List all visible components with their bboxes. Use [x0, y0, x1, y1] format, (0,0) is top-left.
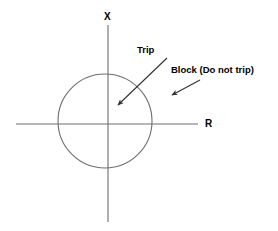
block-arrow-icon [172, 80, 200, 95]
vertical-axis-label: X [104, 12, 111, 22]
horizontal-axis-label: R [205, 119, 212, 129]
block-region-label: Block (Do not trip) [171, 65, 254, 75]
trip-characteristic-circle [58, 74, 152, 168]
diagram-graphics [0, 0, 278, 231]
impedance-diagram-canvas: X R Trip Block (Do not trip) [0, 0, 278, 231]
trip-arrow-icon [118, 58, 167, 105]
trip-region-label: Trip [137, 45, 154, 55]
